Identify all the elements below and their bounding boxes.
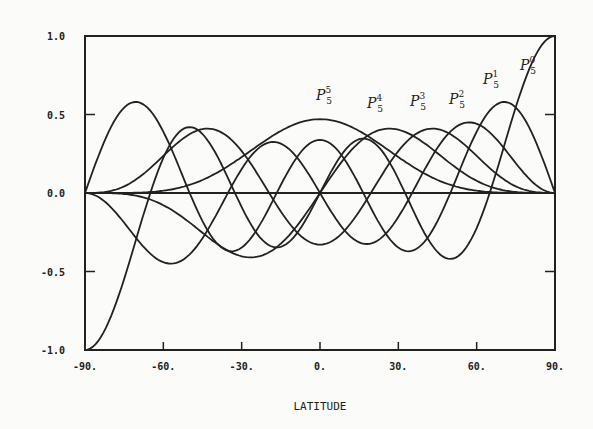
x-tick-label: -60. [151,361,175,372]
label-P5-0: P05 [519,55,536,76]
curve-labels: P05P15P25P35P45P55 [315,55,536,114]
x-tick-label: 30. [389,361,407,372]
y-tick-label: -0.5 [41,267,65,278]
label-P5-4: P45 [366,93,383,114]
label-P5-5: P55 [315,85,332,106]
y-tick-label: -1.0 [41,345,65,356]
curve-P5-5 [85,119,555,193]
x-axis-label: LATITUDE [294,400,347,413]
y-tick-label: 0.0 [47,188,65,199]
x-tick-label: 90. [546,361,564,372]
curve-P5-3 [85,129,555,245]
label-P5-2: P25 [448,89,465,110]
x-tick-label: -90. [73,361,97,372]
label-P5-1: P15 [482,69,499,90]
y-tick-label: 1.0 [47,31,65,42]
x-tick-label: 60. [468,361,486,372]
x-tick-label: 0. [314,361,326,372]
legendre-chart: -90.-60.-30.0.30.60.90.-1.0-0.50.00.51.0… [0,0,593,429]
y-tick-label: 0.5 [47,110,65,121]
x-tick-label: -30. [230,361,254,372]
label-P5-3: P35 [409,91,426,112]
